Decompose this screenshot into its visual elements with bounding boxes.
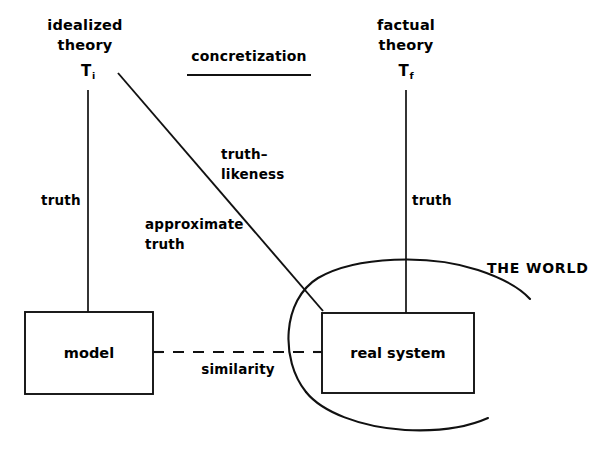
approximate-truth-label: approximate truth	[145, 214, 244, 255]
factual-theory-symbol-sub: f	[410, 70, 414, 81]
approximate-truth-line2: truth	[145, 234, 244, 254]
truthlikeness-label: truth– likeness	[221, 144, 284, 185]
concretization-label: concretization	[179, 48, 319, 66]
diagram-canvas: idealized theory Ti factual theory Tf co…	[0, 0, 606, 459]
factual-theory-line2: theory	[343, 36, 469, 56]
the-world-label: THE WORLD	[487, 260, 589, 278]
factual-theory-label: factual theory	[343, 16, 469, 55]
idealized-theory-line1: idealized	[20, 16, 150, 36]
idealized-theory-label: idealized theory	[20, 16, 150, 55]
idealized-theory-symbol-sub: i	[92, 70, 95, 81]
approximate-truth-line1: approximate	[145, 214, 244, 234]
similarity-label: similarity	[178, 361, 298, 378]
truth-right-label: truth	[412, 192, 452, 209]
factual-theory-line1: factual	[343, 16, 469, 36]
truthlikeness-diagonal-line	[118, 73, 323, 311]
factual-theory-symbol-base: T	[399, 62, 409, 80]
real-system-box-label: real system	[322, 313, 474, 393]
truthlikeness-line1: truth–	[221, 144, 284, 164]
world-oval-lower-arc	[306, 392, 488, 430]
idealized-theory-line2: theory	[20, 36, 150, 56]
idealized-theory-symbol-base: T	[81, 62, 91, 80]
truthlikeness-line2: likeness	[221, 164, 284, 184]
model-box-label: model	[25, 312, 153, 394]
idealized-theory-symbol: Ti	[58, 62, 118, 81]
truth-left-label: truth	[41, 192, 81, 209]
factual-theory-symbol: Tf	[376, 62, 436, 81]
